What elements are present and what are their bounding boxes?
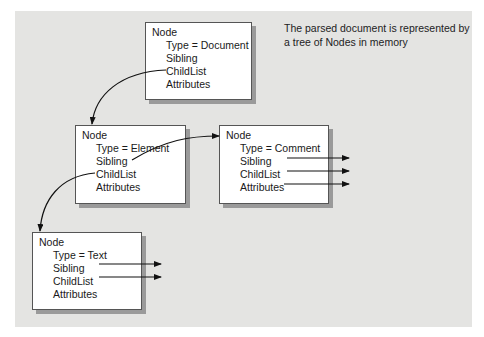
node-title: Node	[82, 129, 185, 142]
node-sibling: Sibling	[82, 155, 185, 168]
node-text: Node Type = Text Sibling ChildList Attri…	[32, 232, 142, 310]
node-childlist: ChildList	[39, 275, 141, 288]
node-attributes: Attributes	[39, 288, 141, 301]
node-title: Node	[152, 26, 251, 39]
note-line-2: a tree of Nodes in memory	[284, 35, 474, 49]
node-title: Node	[226, 129, 328, 142]
node-attributes: Attributes	[82, 181, 185, 194]
node-type: Type = Document	[152, 39, 251, 52]
node-type: Type = Text	[39, 249, 141, 262]
node-sibling: Sibling	[226, 155, 328, 168]
node-title: Node	[39, 236, 141, 249]
node-childlist: ChildList	[226, 168, 328, 181]
node-type: Type = Comment	[226, 142, 328, 155]
node-attributes: Attributes	[152, 78, 251, 91]
node-type: Type = Element	[82, 142, 185, 155]
node-comment: Node Type = Comment Sibling ChildList At…	[219, 125, 329, 204]
node-sibling: Sibling	[39, 262, 141, 275]
node-childlist: ChildList	[82, 168, 185, 181]
diagram-note: The parsed document is represented by a …	[284, 21, 474, 49]
node-document: Node Type = Document Sibling ChildList A…	[145, 22, 252, 100]
node-attributes: Attributes	[226, 181, 328, 194]
node-sibling: Sibling	[152, 52, 251, 65]
node-childlist: ChildList	[152, 65, 251, 78]
node-element: Node Type = Element Sibling ChildList At…	[75, 125, 186, 204]
note-line-1: The parsed document is represented by	[284, 21, 474, 35]
